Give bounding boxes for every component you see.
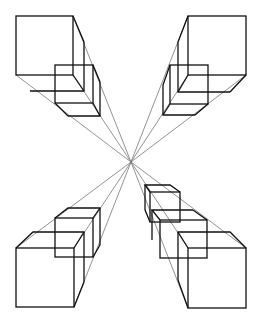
guide-lines (16, 16, 246, 308)
cube-group-top-left (16, 16, 100, 116)
cube-group-top-right (163, 16, 246, 115)
cube-group-bottom-left (16, 208, 100, 307)
cube-group-bottom-right (145, 185, 246, 308)
perspective-diagram (0, 0, 260, 326)
